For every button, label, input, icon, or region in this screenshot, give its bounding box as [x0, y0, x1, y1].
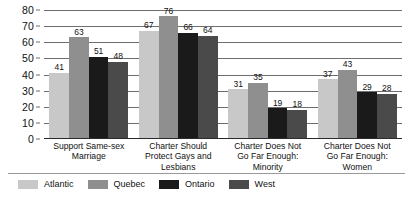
y-axis-tick-label: 60	[22, 37, 34, 48]
bar-value-label: 43	[343, 60, 352, 69]
bar[interactable]: 37	[318, 79, 338, 139]
y-axis-tick-label: 0	[28, 134, 34, 145]
category-label-line: Support Same-sex	[45, 141, 133, 151]
bar-value-label: 66	[183, 23, 192, 32]
bar-slot: 48	[108, 10, 128, 139]
bar[interactable]: 64	[198, 36, 218, 139]
bar-value-label: 51	[94, 47, 103, 56]
category-label: Support Same-sexMarriage	[44, 141, 134, 172]
bar-value-label: 63	[74, 28, 83, 37]
chart-legend: AtlanticQuebecOntarioWest	[18, 180, 289, 189]
bar-group: 31351918	[223, 10, 313, 139]
bar[interactable]: 31	[228, 89, 248, 139]
bar-value-label: 19	[273, 99, 282, 108]
bar-value-label: 67	[144, 21, 153, 30]
bar-value-label: 18	[293, 100, 302, 109]
bar-value-label: 37	[323, 70, 332, 79]
bar-group-bars: 31351918	[228, 10, 307, 139]
bar[interactable]: 41	[49, 73, 69, 139]
bar-value-label: 48	[114, 52, 123, 61]
category-label-line: Minority	[224, 162, 312, 172]
legend-separator	[8, 173, 405, 174]
y-axis-tick-mark	[36, 58, 40, 59]
y-axis-tick-mark	[36, 122, 40, 123]
bar-value-label: 35	[253, 73, 262, 82]
category-label-line: Go Far Enough:	[224, 151, 312, 161]
bar[interactable]: 18	[287, 110, 307, 139]
bar-value-label: 76	[164, 7, 173, 16]
y-axis-tick-label: 70	[22, 21, 34, 32]
legend-label: Atlantic	[44, 180, 74, 189]
bar-group: 67766664	[134, 10, 224, 139]
bar-value-label: 41	[54, 63, 63, 72]
category-label-line: Marriage	[45, 151, 133, 161]
bar-slot: 67	[139, 10, 159, 139]
bar-slot: 64	[198, 10, 218, 139]
bar-group-bars: 37432928	[318, 10, 397, 139]
bar-slot: 51	[89, 10, 109, 139]
y-axis-tick-label: 20	[22, 102, 34, 113]
bar-slot: 66	[178, 10, 198, 139]
bar-slot: 18	[287, 10, 307, 139]
bar[interactable]: 67	[139, 31, 159, 139]
category-label: Charter Does NotGo Far Enough:Women	[313, 141, 403, 172]
bar-slot: 41	[49, 10, 69, 139]
bar-chart-figure: 01020304050607080 4163514867766664313519…	[0, 0, 413, 200]
bar[interactable]: 51	[89, 57, 109, 139]
y-axis-tick-label: 30	[22, 85, 34, 96]
bar-slot: 37	[318, 10, 338, 139]
category-label-line: Go Far Enough:	[314, 151, 402, 161]
bar-slot: 63	[69, 10, 89, 139]
y-axis-tick-mark	[36, 106, 40, 107]
bar[interactable]: 76	[159, 16, 179, 139]
legend-label: Quebec	[114, 180, 146, 189]
legend-swatch-icon	[18, 180, 38, 189]
y-axis-tick-mark	[36, 74, 40, 75]
bar[interactable]: 43	[338, 70, 358, 139]
plot-area: 41635148677666643135191837432928	[44, 10, 402, 139]
category-label: Charter Does NotGo Far Enough:Minority	[223, 141, 313, 172]
legend-item-west[interactable]: West	[229, 180, 275, 189]
bar[interactable]: 63	[69, 37, 89, 139]
y-axis-tick-mark	[36, 139, 40, 140]
category-label-line: Lesbians	[135, 162, 223, 172]
bar-value-label: 64	[203, 26, 212, 35]
bar[interactable]: 48	[108, 62, 128, 139]
y-axis-tick-label: 10	[22, 118, 34, 129]
bar-slot: 31	[228, 10, 248, 139]
bar-group-bars: 67766664	[139, 10, 218, 139]
legend-swatch-icon	[229, 180, 249, 189]
bar-slot: 35	[248, 10, 268, 139]
legend-label: West	[255, 180, 275, 189]
legend-label: Ontario	[185, 180, 215, 189]
category-label-line: Women	[314, 162, 402, 172]
y-axis: 01020304050607080	[0, 10, 40, 139]
bar-slot: 76	[159, 10, 179, 139]
category-axis-labels: Support Same-sexMarriageCharter ShouldPr…	[44, 141, 402, 172]
legend-item-atlantic[interactable]: Atlantic	[18, 180, 74, 189]
bar-group: 37432928	[313, 10, 403, 139]
bar[interactable]: 66	[178, 33, 198, 139]
bar-slot: 29	[357, 10, 377, 139]
bar-group-bars: 41635148	[49, 10, 128, 139]
bar-value-label: 28	[382, 84, 391, 93]
category-label-line: Charter Does Not	[224, 141, 312, 151]
y-axis-tick-mark	[36, 26, 40, 27]
bar-slot: 28	[377, 10, 397, 139]
bar[interactable]: 19	[268, 108, 288, 139]
category-label-line: Protect Gays and	[135, 151, 223, 161]
y-axis-tick-mark	[36, 42, 40, 43]
bar[interactable]: 29	[357, 92, 377, 139]
y-axis-tick-mark	[36, 90, 40, 91]
legend-swatch-icon	[88, 180, 108, 189]
bar-group: 41635148	[44, 10, 134, 139]
category-label: Charter ShouldProtect Gays andLesbians	[134, 141, 224, 172]
y-axis-tick-label: 40	[22, 69, 34, 80]
legend-item-quebec[interactable]: Quebec	[88, 180, 146, 189]
bar-value-label: 29	[362, 83, 371, 92]
legend-item-ontario[interactable]: Ontario	[159, 180, 215, 189]
bar[interactable]: 35	[248, 83, 268, 139]
y-axis-tick-label: 80	[22, 5, 34, 16]
bar[interactable]: 28	[377, 94, 397, 139]
bar-slot: 43	[338, 10, 358, 139]
